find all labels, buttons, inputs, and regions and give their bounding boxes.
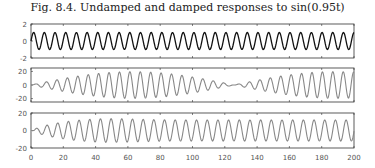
y-tick-label: 20 [18, 110, 27, 118]
x-tick-label: 0 [29, 154, 33, 162]
series-line-1 [31, 33, 354, 50]
y-tick-label: 0 [23, 127, 27, 135]
y-tick-label: 0 [23, 82, 27, 90]
chart-area: -202-20020-20020020406080100120140160180… [0, 0, 375, 168]
x-tick-label: 60 [123, 154, 132, 162]
x-tick-label: 160 [283, 154, 296, 162]
x-tick-label: 120 [218, 154, 231, 162]
x-tick-label: 180 [315, 154, 328, 162]
x-tick-label: 20 [59, 154, 68, 162]
y-tick-label: -20 [16, 95, 27, 103]
y-tick-label: -20 [16, 145, 27, 153]
x-tick-label: 140 [250, 154, 263, 162]
x-tick-label: 100 [186, 154, 199, 162]
y-tick-label: 20 [18, 68, 27, 76]
x-tick-label: 200 [347, 154, 360, 162]
y-tick-label: -2 [20, 55, 27, 63]
x-tick-label: 80 [156, 154, 165, 162]
y-tick-label: 2 [23, 21, 27, 29]
y-tick-label: 0 [23, 38, 27, 46]
x-tick-label: 40 [91, 154, 100, 162]
series-line-3 [31, 119, 354, 143]
series-line-2 [31, 72, 354, 99]
plot-frame-2 [31, 68, 354, 102]
